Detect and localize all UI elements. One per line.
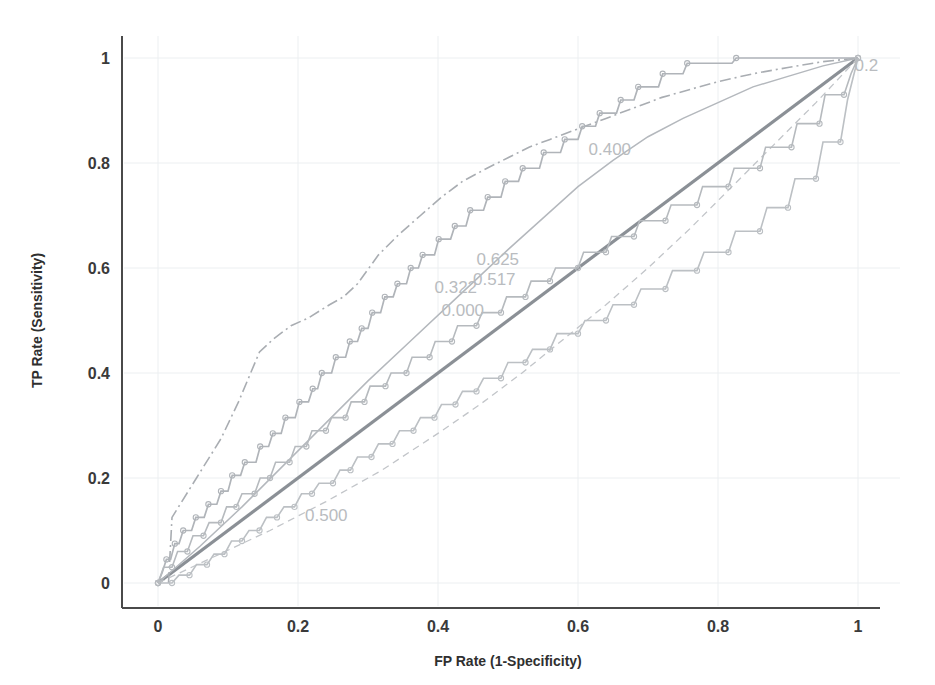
y-tick-label: 0.6 — [88, 260, 110, 277]
point-annotation: 0.517 — [473, 270, 516, 289]
point-annotation: 0.500 — [305, 506, 348, 525]
y-tick-label: 1 — [101, 50, 110, 67]
point-annotation: 0.400 — [589, 140, 632, 159]
point-annotation: 0.000 — [442, 301, 485, 320]
x-tick-label: 1 — [854, 618, 863, 635]
x-tick-label: 0.6 — [567, 618, 589, 635]
x-tick-label: 0 — [154, 618, 163, 635]
x-tick-label: 0.8 — [707, 618, 729, 635]
point-annotation: 0.2 — [855, 56, 879, 75]
y-axis-title: TP Rate (Sensitivity) — [29, 253, 45, 388]
x-axis-title: FP Rate (1-Specificity) — [434, 653, 582, 669]
y-tick-label: 0.8 — [88, 155, 110, 172]
y-tick-label: 0 — [101, 575, 110, 592]
roc-chart: 0.20.4000.6250.5170.3220.0000.500 00.20.… — [0, 0, 935, 685]
x-tick-label: 0.2 — [287, 618, 309, 635]
point-annotation: 0.625 — [477, 250, 520, 269]
chart-background — [0, 0, 935, 685]
x-tick-label: 0.4 — [427, 618, 449, 635]
y-tick-label: 0.4 — [88, 365, 110, 382]
y-tick-label: 0.2 — [88, 470, 110, 487]
point-annotation: 0.322 — [435, 278, 478, 297]
